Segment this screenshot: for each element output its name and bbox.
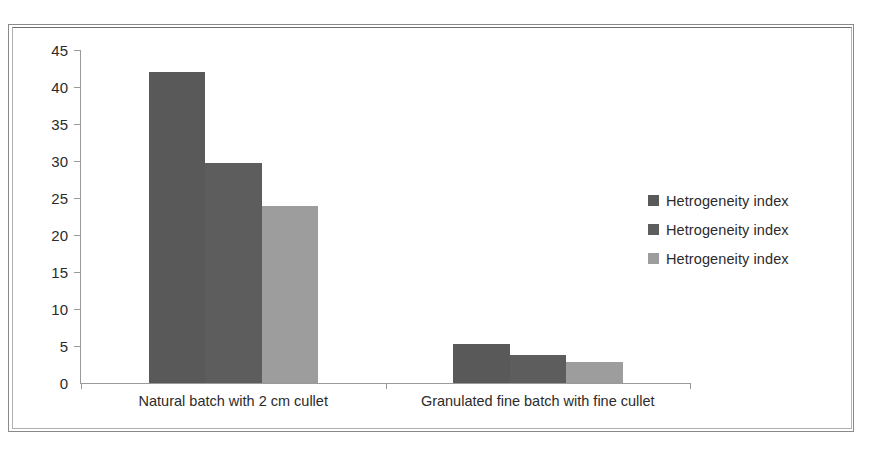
category-tick-0 [81,383,82,389]
category-tick-1 [386,383,387,389]
y-tick-mark-25 [74,198,80,199]
y-tick-mark-45 [74,50,80,51]
chart-legend: Hetrogeneity indexHetrogeneity indexHetr… [648,186,858,273]
bar-cat1-series3 [262,206,319,383]
y-tick-mark-40 [74,87,80,88]
y-tick-mark-15 [74,272,80,273]
y-tick-mark-5 [74,346,80,347]
y-tick-mark-35 [74,124,80,125]
bar-cat2-series1 [453,344,510,383]
legend-label-1: Hetrogeneity index [666,193,789,209]
bar-cat1-series1 [149,72,206,383]
y-tick-label-0: 0 [28,376,68,391]
y-tick-label-25: 25 [28,191,68,206]
legend-item-1[interactable]: Hetrogeneity index [648,186,858,215]
bar-cat2-series2 [510,355,567,383]
chart-page: 454035302520151050 Natural batch with 2 … [0,0,880,449]
y-tick-label-45: 45 [28,43,68,58]
legend-swatch-icon-3 [648,253,659,264]
y-tick-label-30: 30 [28,154,68,169]
legend-swatch-icon-1 [648,195,659,206]
category-tick-2 [690,383,691,389]
y-tick-mark-20 [74,235,80,236]
legend-label-3: Hetrogeneity index [666,251,789,267]
bars-layer [81,50,690,383]
y-tick-label-5: 5 [28,339,68,354]
bar-cat2-series3 [566,362,623,383]
y-tick-label-15: 15 [28,265,68,280]
y-tick-mark-30 [74,161,80,162]
y-tick-label-20: 20 [28,228,68,243]
legend-label-2: Hetrogeneity index [666,222,789,238]
y-tick-mark-10 [74,309,80,310]
y-tick-label-10: 10 [28,302,68,317]
legend-swatch-icon-2 [648,224,659,235]
category-label-1: Natural batch with 2 cm cullet [81,393,386,409]
bar-cat1-series2 [205,163,262,383]
y-tick-label-40: 40 [28,80,68,95]
y-axis-tick-labels: 454035302520151050 [22,0,68,449]
legend-item-3[interactable]: Hetrogeneity index [648,244,858,273]
category-label-2: Granulated fine batch with fine cullet [386,393,691,409]
y-tick-label-35: 35 [28,117,68,132]
legend-item-2[interactable]: Hetrogeneity index [648,215,858,244]
